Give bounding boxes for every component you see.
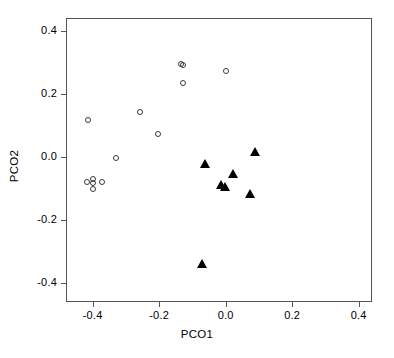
- x-tick-1: [159, 302, 160, 307]
- x-tick-0: [93, 302, 94, 307]
- data-point-filled-triangle: [250, 147, 260, 156]
- data-point-open-circle: [85, 117, 91, 123]
- data-point-filled-triangle: [197, 259, 207, 268]
- data-point-filled-triangle: [245, 189, 255, 198]
- y-tick-label-4: 0.4: [9, 24, 57, 36]
- data-point-open-circle: [155, 131, 161, 137]
- data-point-filled-triangle: [228, 169, 238, 178]
- data-points-layer: [67, 19, 371, 301]
- y-tick-1: [61, 220, 66, 221]
- y-tick-3: [61, 94, 66, 95]
- scatter-plot-figure: PCO2 -0.4-0.20.00.20.4 -0.4-0.20.00.20.4…: [0, 0, 394, 358]
- x-tick-label-2: 0.0: [206, 309, 246, 321]
- data-point-open-circle: [223, 68, 229, 74]
- data-point-open-circle: [180, 62, 186, 68]
- y-tick-label-1: -0.2: [9, 213, 57, 225]
- x-tick-label-3: 0.2: [272, 309, 312, 321]
- y-axis-title: PCO2: [8, 116, 20, 216]
- y-tick-4: [61, 31, 66, 32]
- x-tick-label-4: 0.4: [339, 309, 379, 321]
- y-tick-2: [61, 157, 66, 158]
- x-tick-3: [292, 302, 293, 307]
- x-tick-label-1: -0.2: [139, 309, 179, 321]
- data-point-open-circle: [90, 180, 96, 186]
- x-tick-4: [359, 302, 360, 307]
- y-tick-label-3: 0.2: [9, 87, 57, 99]
- data-point-open-circle: [137, 109, 143, 115]
- y-tick-label-0: -0.4: [9, 276, 57, 288]
- y-tick-label-2: 0.0: [9, 150, 57, 162]
- x-tick-label-0: -0.4: [73, 309, 113, 321]
- data-point-filled-triangle: [220, 182, 230, 191]
- data-point-open-circle: [90, 186, 96, 192]
- x-axis-title: PCO1: [0, 328, 394, 340]
- data-point-filled-triangle: [200, 159, 210, 168]
- data-point-open-circle: [180, 80, 186, 86]
- x-tick-2: [226, 302, 227, 307]
- plot-frame: [66, 18, 372, 302]
- data-point-open-circle: [99, 179, 105, 185]
- y-tick-0: [61, 283, 66, 284]
- data-point-open-circle: [113, 155, 119, 161]
